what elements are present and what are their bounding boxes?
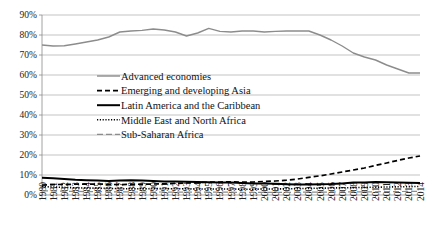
x-axis-tick-label: 1993 xyxy=(182,182,192,201)
x-axis-tick-label: 2014 xyxy=(416,182,426,201)
y-axis-tick-label: 30% xyxy=(20,130,38,140)
y-axis-tick-label: 0% xyxy=(24,190,37,200)
x-axis-tick-label: 1994 xyxy=(193,182,203,201)
x-axis-tick-label: 1999 xyxy=(249,182,259,201)
x-axis-tick-label: 2007 xyxy=(338,182,348,201)
chart-container: 0%10%20%30%40%50%60%70%80%90%19801981198… xyxy=(0,0,428,239)
x-axis-tick-label: 1996 xyxy=(215,182,225,201)
y-axis-tick-label: 60% xyxy=(20,70,38,80)
legend-label-3: Middle East and North Africa xyxy=(121,115,246,126)
x-axis-tick-label: 1997 xyxy=(227,182,237,201)
legend-label-1: Emerging and developing Asia xyxy=(121,85,251,96)
y-axis-tick-label: 10% xyxy=(20,170,38,180)
y-axis-tick-label: 40% xyxy=(20,110,38,120)
y-axis-tick-label: 50% xyxy=(20,90,38,100)
legend-label-2: Latin America and the Caribbean xyxy=(121,100,261,111)
y-axis-tick-label: 90% xyxy=(20,10,38,20)
legend-label-0: Advanced economies xyxy=(121,71,211,82)
x-axis-tick-label: 1995 xyxy=(204,182,214,201)
x-axis-tick-label: 1998 xyxy=(238,182,248,201)
line-chart: 0%10%20%30%40%50%60%70%80%90%19801981198… xyxy=(0,0,428,239)
x-axis-tick-label: 1991 xyxy=(160,182,170,201)
legend-label-4: Sub-Saharan Africa xyxy=(121,129,204,140)
y-axis-tick-label: 80% xyxy=(20,30,38,40)
y-axis-tick-label: 20% xyxy=(20,150,38,160)
y-axis-tick-label: 70% xyxy=(20,50,38,60)
x-axis-tick-label: 1992 xyxy=(171,182,181,201)
